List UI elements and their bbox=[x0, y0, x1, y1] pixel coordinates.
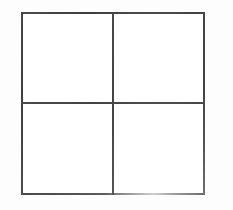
grid-cell-bottom-left[interactable] bbox=[23, 104, 112, 193]
grid-cell-top-right[interactable] bbox=[114, 14, 203, 102]
grid-outer-square bbox=[21, 12, 205, 195]
figure-canvas bbox=[0, 0, 233, 210]
grid-cell-top-left[interactable] bbox=[23, 14, 112, 102]
grid-cell-bottom-right[interactable] bbox=[114, 104, 203, 193]
